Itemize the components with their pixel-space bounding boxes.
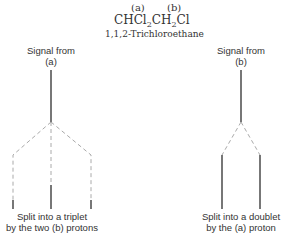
left-caption: Split into a triplet by the two (b) prot… [0, 211, 104, 233]
splitting-diagram [0, 0, 291, 236]
triplet-tree [13, 70, 91, 209]
right-caption: Split into a doublet by the (a) proton [191, 211, 291, 233]
doublet-tree [222, 70, 260, 209]
